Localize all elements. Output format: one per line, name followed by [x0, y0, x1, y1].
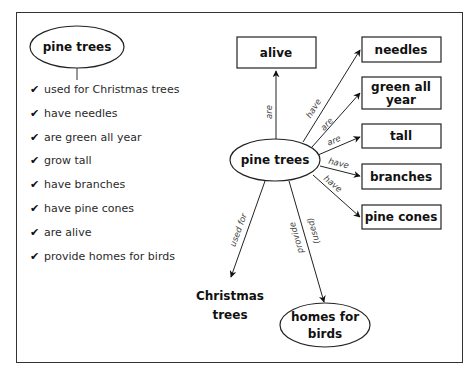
- fact-text: have branches: [44, 178, 125, 191]
- edge-label-homes-used: (used): [305, 216, 322, 245]
- node-tall-text: tall: [390, 129, 412, 143]
- fact-text: have pine cones: [44, 202, 134, 215]
- node-needles-text: needles: [375, 43, 428, 57]
- edge-label-pine-cones: have: [322, 173, 344, 194]
- fact-item: ✔grow tall: [30, 153, 179, 177]
- center-node-text: pine trees: [241, 153, 310, 167]
- node-pine-cones: pine cones: [362, 205, 441, 229]
- node-green-text-2: year: [386, 93, 416, 107]
- edge-label-green: are: [318, 115, 335, 132]
- checkmark-icon: ✔: [30, 130, 44, 146]
- node-alive: alive: [237, 37, 316, 68]
- fact-item: ✔provide homes for birds: [30, 249, 179, 273]
- node-green-text-1: green all: [371, 80, 431, 94]
- fact-text: are alive: [44, 226, 91, 239]
- node-christmas-text-1: Christmas: [196, 289, 264, 303]
- checkmark-icon: ✔: [30, 106, 44, 122]
- checkmark-icon: ✔: [30, 153, 44, 169]
- fact-text: provide homes for birds: [44, 250, 175, 263]
- node-alive-text: alive: [260, 46, 292, 60]
- edge-label-needles: have: [304, 97, 324, 120]
- fact-text: grow tall: [44, 154, 92, 167]
- fact-item: ✔have pine cones: [30, 201, 179, 225]
- checkmark-icon: ✔: [30, 82, 44, 98]
- fact-text: have needles: [44, 107, 118, 120]
- node-christmas-trees: Christmas trees: [196, 289, 264, 322]
- node-homes-text-1: homes for: [291, 310, 359, 324]
- node-homes-for-birds: homes for birds: [280, 303, 370, 347]
- node-homes-text-2: birds: [308, 327, 342, 341]
- facts-list: ✔used for Christmas trees ✔have needles …: [30, 82, 179, 272]
- node-needles: needles: [362, 37, 441, 62]
- fact-text: used for Christmas trees: [44, 83, 179, 96]
- checkmark-icon: ✔: [30, 177, 44, 193]
- fact-item: ✔have needles: [30, 106, 179, 130]
- node-branches: branches: [362, 164, 441, 189]
- fact-text: are green all year: [44, 131, 141, 144]
- node-branches-text: branches: [370, 170, 432, 184]
- node-green-all-year: green all year: [362, 77, 441, 109]
- edge-label-christmas: used for: [228, 211, 249, 248]
- fact-item: ✔used for Christmas trees: [30, 82, 179, 106]
- fact-item: ✔have branches: [30, 177, 179, 201]
- checkmark-icon: ✔: [30, 225, 44, 241]
- checkmark-icon: ✔: [30, 201, 44, 217]
- fact-item: ✔are green all year: [30, 130, 179, 154]
- checkmark-icon: ✔: [30, 249, 44, 265]
- node-christmas-text-2: trees: [212, 308, 247, 322]
- left-title-text: pine trees: [43, 40, 112, 54]
- node-pine-cones-text: pine cones: [365, 210, 438, 224]
- edge-label-alive: are: [264, 105, 274, 119]
- edge-label-homes-provide: provide: [287, 221, 306, 256]
- node-tall: tall: [362, 124, 441, 148]
- center-node: pine trees: [230, 139, 320, 181]
- fact-item: ✔are alive: [30, 225, 179, 249]
- left-title-node: pine trees: [30, 26, 124, 68]
